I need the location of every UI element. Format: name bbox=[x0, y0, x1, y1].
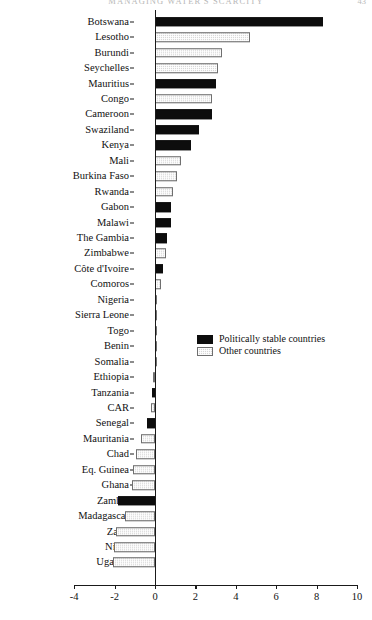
legend-label-stable: Politically stable countries bbox=[219, 334, 325, 344]
page-number: 43 bbox=[358, 0, 367, 6]
bar-row: Eq. Guinea bbox=[0, 462, 372, 477]
bar-row: Burkina Faso bbox=[0, 169, 372, 184]
bar bbox=[155, 249, 166, 259]
bar-row: Uganda bbox=[0, 555, 372, 570]
bar bbox=[116, 527, 155, 537]
bar bbox=[155, 233, 167, 243]
category-label: Mauritius bbox=[88, 78, 129, 89]
bar-row: Zambia bbox=[0, 493, 372, 508]
x-axis-tick bbox=[276, 585, 277, 589]
category-label: Burkina Faso bbox=[73, 171, 129, 182]
bar-row: Chad bbox=[0, 447, 372, 462]
y-axis-tick bbox=[130, 114, 134, 115]
bar bbox=[114, 542, 155, 552]
bar-row: Comoros bbox=[0, 277, 372, 292]
y-axis-tick bbox=[130, 392, 134, 393]
y-axis-tick bbox=[130, 52, 134, 53]
y-axis-tick bbox=[130, 346, 134, 347]
y-axis-tick bbox=[130, 21, 134, 22]
x-axis-tick bbox=[115, 585, 116, 589]
bar bbox=[155, 32, 250, 42]
category-label: Somalia bbox=[95, 356, 129, 367]
y-axis-tick bbox=[130, 238, 134, 239]
y-axis-tick bbox=[130, 423, 134, 424]
x-axis-tick-label: -2 bbox=[110, 591, 119, 602]
bar-row: Swaziland bbox=[0, 122, 372, 137]
x-axis-tick-label: 6 bbox=[274, 591, 279, 602]
bar bbox=[141, 434, 155, 444]
bar bbox=[155, 187, 173, 197]
bar-row: Madagascar bbox=[0, 508, 372, 523]
category-label: Kenya bbox=[102, 140, 129, 151]
bar bbox=[155, 141, 191, 151]
y-axis-tick bbox=[130, 268, 134, 269]
bar-row: Côte d'Ivoire bbox=[0, 261, 372, 276]
y-axis-tick bbox=[130, 377, 134, 378]
x-axis-tick-label: 4 bbox=[233, 591, 238, 602]
bar bbox=[155, 48, 222, 58]
bar-row: Gabon bbox=[0, 199, 372, 214]
category-label: Senegal bbox=[96, 418, 129, 429]
bar-row: Nigeria bbox=[0, 292, 372, 307]
category-label: Gabon bbox=[101, 202, 129, 213]
bar bbox=[155, 218, 171, 228]
bar bbox=[118, 496, 155, 506]
bar bbox=[113, 558, 155, 568]
bar bbox=[155, 79, 216, 89]
bar-row: CAR bbox=[0, 400, 372, 415]
bar-row: Lesotho bbox=[0, 29, 372, 44]
category-label: CAR bbox=[107, 403, 129, 414]
chart-legend: Politically stable countries Other count… bbox=[194, 332, 328, 361]
bar-row: Botswana bbox=[0, 14, 372, 29]
category-label: Côte d'Ivoire bbox=[74, 264, 129, 275]
plot-area: BotswanaLesothoBurundiSeychellesMauritiu… bbox=[0, 10, 372, 585]
bar bbox=[136, 450, 155, 460]
bar bbox=[147, 419, 155, 429]
bar-row: Senegal bbox=[0, 416, 372, 431]
x-axis-ticks: -4-20246810 bbox=[0, 585, 372, 605]
category-label: Mali bbox=[109, 156, 129, 167]
bar bbox=[155, 63, 218, 73]
y-axis-tick bbox=[130, 253, 134, 254]
y-axis-tick bbox=[130, 438, 134, 439]
bar-row: Burundi bbox=[0, 45, 372, 60]
bar-row: Zimbabwe bbox=[0, 246, 372, 261]
category-label: Madagascar bbox=[78, 511, 129, 522]
bar bbox=[155, 171, 177, 181]
category-label: Burundi bbox=[95, 47, 129, 58]
x-axis-tick-label: 8 bbox=[314, 591, 319, 602]
bar-row: Ethiopia bbox=[0, 369, 372, 384]
bar-row: Ghana bbox=[0, 478, 372, 493]
bar bbox=[133, 465, 155, 475]
bar-row: Rwanda bbox=[0, 184, 372, 199]
category-label: Zimbabwe bbox=[84, 248, 129, 259]
x-axis-tick bbox=[357, 585, 358, 589]
legend-item-stable: Politically stable countries bbox=[197, 334, 325, 344]
x-axis-tick-label: 10 bbox=[352, 591, 363, 602]
bar bbox=[132, 480, 155, 490]
bar-row: Seychelles bbox=[0, 60, 372, 75]
legend-label-other: Other countries bbox=[219, 346, 281, 356]
category-label: Lesotho bbox=[95, 32, 129, 43]
y-axis-tick bbox=[130, 68, 134, 69]
y-axis-tick bbox=[130, 191, 134, 192]
bar bbox=[155, 17, 323, 27]
bar-row: Tanzania bbox=[0, 385, 372, 400]
bar bbox=[155, 94, 212, 104]
bar bbox=[125, 511, 155, 521]
bar bbox=[155, 202, 171, 212]
y-axis-tick bbox=[130, 299, 134, 300]
legend-swatch-other-icon bbox=[197, 347, 213, 356]
bar-row: Cameroon bbox=[0, 107, 372, 122]
category-label: Ethiopia bbox=[93, 372, 129, 383]
y-axis-tick bbox=[130, 176, 134, 177]
y-axis-tick bbox=[130, 207, 134, 208]
y-axis-tick bbox=[130, 37, 134, 38]
bar-row: Zaire bbox=[0, 524, 372, 539]
y-axis-tick bbox=[130, 83, 134, 84]
bar-row: Mauritania bbox=[0, 431, 372, 446]
category-label: Mauritania bbox=[83, 434, 129, 445]
category-label: Ghana bbox=[102, 480, 129, 491]
x-axis-tick bbox=[155, 585, 156, 589]
category-label: The Gambia bbox=[77, 233, 129, 244]
